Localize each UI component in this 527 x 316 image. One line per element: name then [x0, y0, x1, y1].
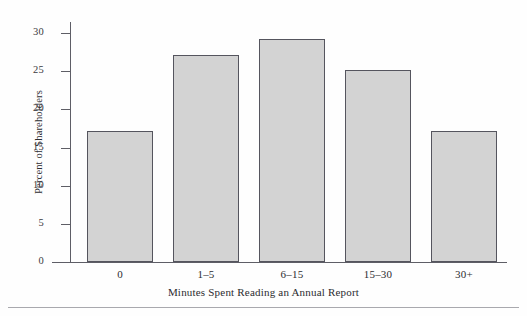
x-tick-label: 1–5: [173, 268, 239, 281]
y-tick-label: 5: [22, 218, 44, 228]
y-tick-5: 5: [0, 224, 70, 225]
y-tick-10: 10: [0, 186, 70, 187]
bar: [431, 131, 497, 262]
y-axis-ticks: 051015202530: [0, 0, 70, 316]
y-tick-label: 30: [22, 27, 44, 37]
y-tick-20: 20: [0, 109, 70, 110]
bar: [259, 39, 325, 262]
y-tick-label: 0: [22, 256, 44, 266]
y-tick-label: 10: [22, 180, 44, 190]
y-tick-label: 25: [22, 65, 44, 75]
x-tick-label: 6–15: [259, 268, 325, 281]
x-tick-label: 0: [87, 268, 153, 281]
y-tick-mark: [61, 109, 70, 110]
y-tick-30: 30: [0, 33, 70, 34]
bar: [87, 131, 153, 262]
y-tick-25: 25: [0, 71, 70, 72]
y-tick-mark: [61, 33, 70, 34]
y-tick-15: 15: [0, 148, 70, 149]
plot-area: [70, 22, 500, 262]
y-tick-mark: [61, 224, 70, 225]
x-tick-label: 15–30: [345, 268, 411, 281]
y-tick-label: 15: [22, 142, 44, 152]
x-axis-title: Minutes Spent Reading an Annual Report: [0, 286, 527, 299]
y-tick-mark: [61, 186, 70, 187]
y-tick-mark: [61, 71, 70, 72]
bottom-divider: [8, 307, 519, 308]
x-axis-line: [52, 262, 507, 263]
x-tick-label: 30+: [431, 268, 497, 281]
bar-chart-figure: Percent of Shareholders 051015202530 01–…: [0, 0, 527, 316]
y-tick-label: 20: [22, 103, 44, 113]
bar: [173, 55, 239, 262]
y-tick-mark: [61, 148, 70, 149]
bar: [345, 70, 411, 262]
